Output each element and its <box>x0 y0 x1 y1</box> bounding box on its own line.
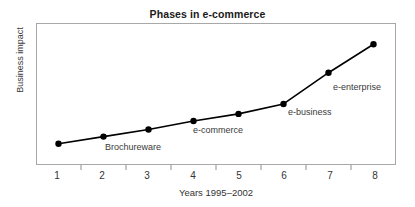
data-point <box>280 101 286 107</box>
annotation-brochureware: Brochureware <box>105 142 161 152</box>
plot-series-layer <box>36 23 396 165</box>
x-tick-label-6: 6 <box>270 170 298 181</box>
x-tick-label-2: 2 <box>88 170 116 181</box>
data-point <box>235 111 241 117</box>
x-tick-label-1: 1 <box>43 170 71 181</box>
annotation-e-enterprise: e-enterprise <box>333 82 381 92</box>
x-tick-label-5: 5 <box>225 170 253 181</box>
data-point <box>325 70 331 76</box>
x-tick-label-4: 4 <box>179 170 207 181</box>
data-point <box>145 126 151 132</box>
annotation-e-business: e-business <box>288 107 332 117</box>
x-tick-label-3: 3 <box>133 170 161 181</box>
data-point <box>100 133 106 139</box>
data-point <box>55 141 61 147</box>
x-axis-label: Years 1995–2002 <box>36 187 396 198</box>
chart-title: Phases in e-commerce <box>0 8 415 20</box>
chart-figure: Phases in e-commerce Business impact 1 2… <box>0 0 415 207</box>
y-axis-label: Business impact <box>15 0 25 125</box>
x-tick-label-8: 8 <box>361 170 389 181</box>
x-tick-marks <box>81 165 351 170</box>
data-point <box>190 118 196 124</box>
x-tick-label-7: 7 <box>316 170 344 181</box>
annotation-e-commerce: e-commerce <box>193 125 243 135</box>
data-point <box>370 41 376 47</box>
